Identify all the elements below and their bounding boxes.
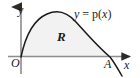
region-label-R: R [57,30,66,43]
x-axis-label: x [124,59,129,71]
curve-label-equals: = [79,7,92,21]
curve-label-paren-close: ) [107,7,111,21]
y-axis-label: y [18,4,23,16]
origin-label: O [11,57,20,69]
math-figure: y O x A R y = p(x) [0,0,140,78]
point-a-label: A [104,58,111,70]
curve-equation-label: y = p(x) [74,8,111,20]
